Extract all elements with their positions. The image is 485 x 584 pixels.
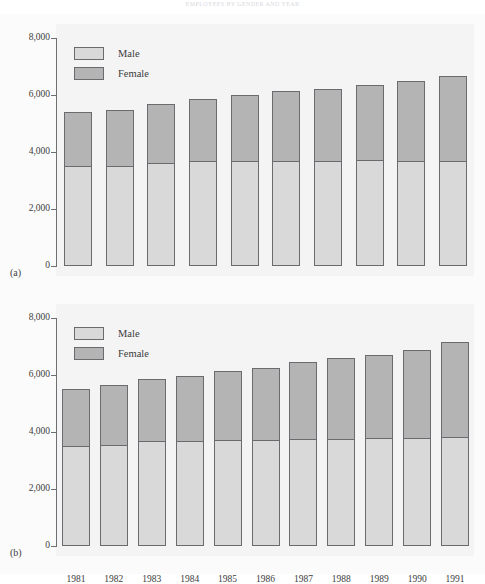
y-tick-text: 8,000 bbox=[4, 313, 50, 323]
bar-segment-male bbox=[252, 440, 280, 546]
bar-column bbox=[64, 111, 92, 266]
x-tick-label: 1984 bbox=[170, 574, 210, 584]
bar-segment-male bbox=[62, 446, 90, 546]
legend-label-male: Male bbox=[118, 327, 140, 340]
bar-segment-female bbox=[147, 104, 175, 164]
legend-swatch-female-icon bbox=[74, 67, 104, 80]
bar-segment-female bbox=[252, 368, 280, 441]
y-tick-mark bbox=[51, 266, 57, 267]
y-tick-label: 4,000 bbox=[0, 427, 50, 437]
x-tick-label: 1989 bbox=[359, 574, 399, 584]
bar-segment-female bbox=[365, 355, 393, 440]
bar-column bbox=[252, 367, 280, 546]
bar-segment-male bbox=[176, 441, 204, 546]
bar-segment-female bbox=[441, 342, 469, 438]
bar-column bbox=[272, 90, 300, 266]
y-tick-text: 8,000 bbox=[4, 33, 50, 43]
legend-swatch-male-icon bbox=[74, 327, 104, 340]
bar-segment-female bbox=[214, 371, 242, 441]
x-tick-label: 1990 bbox=[397, 574, 437, 584]
panel-a-tag: (a) bbox=[10, 267, 21, 279]
bar-segment-male bbox=[441, 437, 469, 546]
bar-segment-female bbox=[138, 379, 166, 442]
x-tick-label: 1983 bbox=[132, 574, 172, 584]
bar-segment-female bbox=[397, 81, 425, 162]
x-tick-label: 1987 bbox=[283, 574, 323, 584]
bar-segment-female bbox=[64, 112, 92, 168]
y-tick-label: 2,000 bbox=[0, 484, 50, 494]
bar-column bbox=[397, 80, 425, 266]
y-tick-text: 4,000 bbox=[4, 147, 50, 157]
bar-column bbox=[327, 357, 355, 546]
bar-segment-male bbox=[138, 441, 166, 546]
bar-column bbox=[106, 109, 134, 266]
y-tick-label: 2,000 bbox=[0, 204, 50, 214]
y-tick-label: 0 bbox=[0, 261, 50, 271]
x-tick-label: 1988 bbox=[321, 574, 361, 584]
y-tick-label: 8,000 bbox=[0, 313, 50, 323]
chart-panel-a: 8,0006,0004,0002,0000 198019811982198319… bbox=[0, 14, 485, 294]
bar-segment-male bbox=[365, 438, 393, 546]
bar-column bbox=[214, 370, 242, 546]
bar-column bbox=[100, 384, 128, 546]
bar-segment-male bbox=[100, 445, 128, 546]
top-caption: EMPLOYEES BY GENDER AND YEAR bbox=[0, 0, 485, 9]
x-tick-label: 1991 bbox=[435, 574, 475, 584]
x-tick-label: 1981 bbox=[56, 574, 96, 584]
panel-b-tag: (b) bbox=[10, 547, 22, 559]
bar-column bbox=[439, 75, 467, 266]
bar-segment-female bbox=[439, 76, 467, 161]
bar-segment-female bbox=[327, 358, 355, 440]
bar-segment-female bbox=[100, 385, 128, 446]
legend-label-male: Male bbox=[118, 47, 140, 60]
bar-segment-male bbox=[106, 166, 134, 266]
bar-segment-female bbox=[289, 362, 317, 440]
y-tick-label: 6,000 bbox=[0, 90, 50, 100]
bar-column bbox=[189, 98, 217, 266]
chart-panel-b: 8,0006,0004,0002,0000 198119821983198419… bbox=[0, 294, 485, 576]
y-tick-text: 4,000 bbox=[4, 427, 50, 437]
bar-column bbox=[147, 103, 175, 266]
bar-segment-female bbox=[231, 95, 259, 161]
y-tick-text: 2,000 bbox=[4, 484, 50, 494]
bar-segment-female bbox=[314, 89, 342, 161]
bar-segment-male bbox=[214, 440, 242, 546]
bar-column bbox=[441, 341, 469, 546]
bar-segment-male bbox=[439, 161, 467, 266]
x-tick-label: 1986 bbox=[246, 574, 286, 584]
legend-label-female: Female bbox=[118, 347, 149, 360]
y-tick-label: 8,000 bbox=[0, 33, 50, 43]
x-tick-label: 1982 bbox=[94, 574, 134, 584]
bar-segment-male bbox=[272, 161, 300, 266]
y-tick-text: 6,000 bbox=[4, 90, 50, 100]
y-tick-label: 6,000 bbox=[0, 370, 50, 380]
bar-segment-male bbox=[403, 438, 431, 546]
bar-segment-male bbox=[314, 161, 342, 266]
legend-label-female: Female bbox=[118, 67, 149, 80]
bar-segment-male bbox=[397, 161, 425, 266]
bar-segment-female bbox=[62, 389, 90, 446]
bar-segment-female bbox=[272, 91, 300, 161]
bar-segment-female bbox=[189, 99, 217, 162]
bar-segment-male bbox=[327, 439, 355, 546]
bar-column bbox=[138, 378, 166, 546]
bar-column bbox=[62, 388, 90, 546]
bar-column bbox=[176, 375, 204, 546]
bar-segment-male bbox=[64, 166, 92, 266]
bar-segment-male bbox=[289, 439, 317, 546]
y-tick-mark bbox=[51, 546, 57, 547]
bar-column bbox=[289, 361, 317, 546]
bar-segment-female bbox=[356, 85, 384, 161]
bar-segment-female bbox=[403, 350, 431, 439]
bar-column bbox=[403, 349, 431, 546]
bar-segment-female bbox=[106, 110, 134, 168]
bar-segment-male bbox=[356, 160, 384, 266]
x-tick-label: 1985 bbox=[208, 574, 248, 584]
y-tick-text: 6,000 bbox=[4, 370, 50, 380]
y-tick-label: 4,000 bbox=[0, 147, 50, 157]
bar-column bbox=[365, 354, 393, 546]
legend-swatch-female-icon bbox=[74, 347, 104, 360]
bar-column bbox=[231, 94, 259, 266]
bar-segment-female bbox=[176, 376, 204, 442]
